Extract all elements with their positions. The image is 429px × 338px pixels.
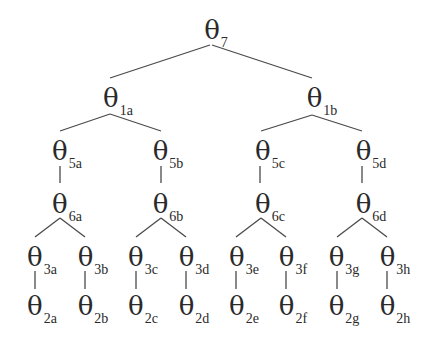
theta-symbol: θ [179, 291, 195, 321]
theta-symbol: θ [204, 15, 220, 45]
theta-symbol: θ [229, 291, 245, 321]
theta-symbol: θ [255, 189, 271, 219]
edge-1b-5c [261, 115, 312, 131]
theta-symbol: θ [128, 242, 144, 272]
theta-symbol: θ [229, 242, 245, 272]
node-theta-5a: θ5a [52, 138, 82, 164]
node-theta-5c: θ5c [255, 138, 285, 164]
edge-6c-3e [236, 218, 261, 237]
node-subscript: 6b [169, 209, 183, 224]
node-theta-6c: θ6c [255, 191, 285, 217]
node-theta-2d: θ2d [179, 293, 210, 319]
node-theta-3f: θ3f [279, 244, 307, 270]
edge-7-1a [110, 45, 210, 78]
node-subscript: 5a [69, 156, 82, 171]
node-theta-6d: θ6d [356, 191, 387, 217]
node-subscript: 5b [169, 156, 183, 171]
edge-1a-5b [110, 114, 161, 131]
node-theta-2b: θ2b [78, 293, 109, 319]
node-theta-2a: θ2a [27, 293, 57, 319]
node-subscript: 2d [195, 311, 209, 326]
node-theta-5b: θ5b [153, 138, 184, 164]
node-subscript: 1b [323, 103, 337, 118]
theta-symbol: θ [52, 189, 68, 219]
theta-symbol: θ [380, 242, 396, 272]
theta-symbol: θ [27, 291, 43, 321]
node-theta-2e: θ2e [229, 293, 259, 319]
node-theta-6a: θ6a [52, 191, 82, 217]
theta-symbol: θ [128, 291, 144, 321]
node-subscript: 3f [295, 262, 307, 277]
node-subscript: 2g [345, 311, 359, 326]
edge-6b-3c [136, 218, 161, 237]
theta-symbol: θ [307, 83, 323, 113]
node-theta-3d: θ3d [179, 244, 210, 270]
node-theta-7: θ7 [204, 17, 228, 43]
edge-1a-5a [60, 114, 110, 131]
theta-symbol: θ [153, 189, 169, 219]
node-subscript: 5c [272, 156, 285, 171]
node-subscript: 7 [221, 35, 228, 50]
node-subscript: 1a [120, 103, 133, 118]
node-subscript: 3g [345, 262, 359, 277]
theta-symbol: θ [356, 189, 372, 219]
node-subscript: 6d [372, 209, 386, 224]
node-theta-3e: θ3e [229, 244, 259, 270]
node-subscript: 3a [44, 262, 57, 277]
node-theta-3c: θ3c [128, 244, 158, 270]
node-subscript: 3c [145, 262, 158, 277]
theta-symbol: θ [78, 291, 94, 321]
node-subscript: 5d [372, 156, 386, 171]
node-theta-3g: θ3g [329, 244, 360, 270]
node-subscript: 3e [246, 262, 259, 277]
theta-symbol: θ [255, 136, 271, 166]
node-theta-3b: θ3b [78, 244, 109, 270]
node-subscript: 2a [44, 311, 57, 326]
node-theta-3a: θ3a [27, 244, 57, 270]
node-subscript: 3d [195, 262, 209, 277]
tree-edges [0, 0, 429, 338]
node-subscript: 2b [94, 311, 108, 326]
node-subscript: 2h [396, 311, 410, 326]
theta-symbol: θ [27, 242, 43, 272]
node-theta-5d: θ5d [356, 138, 387, 164]
node-subscript: 6a [69, 209, 82, 224]
theta-symbol: θ [329, 291, 345, 321]
node-theta-2f: θ2f [279, 293, 307, 319]
node-subscript: 2f [295, 311, 307, 326]
node-subscript: 3b [94, 262, 108, 277]
theta-symbol: θ [179, 242, 195, 272]
theta-symbol: θ [153, 136, 169, 166]
theta-symbol: θ [329, 242, 345, 272]
theta-symbol: θ [356, 136, 372, 166]
node-theta-2h: θ2h [380, 293, 411, 319]
node-theta-2g: θ2g [329, 293, 360, 319]
theta-symbol: θ [279, 242, 295, 272]
node-subscript: 3h [396, 262, 410, 277]
theta-symbol: θ [279, 291, 295, 321]
node-subscript: 6c [272, 209, 285, 224]
theta-symbol: θ [78, 242, 94, 272]
edge-6a-3a [35, 218, 60, 237]
theta-symbol: θ [380, 291, 396, 321]
node-theta-1a: θ1a [103, 85, 133, 111]
node-subscript: 2c [145, 311, 158, 326]
node-theta-2c: θ2c [128, 293, 158, 319]
edge-6d-3g [337, 218, 362, 237]
node-theta-3h: θ3h [380, 244, 411, 270]
node-theta-6b: θ6b [153, 191, 184, 217]
node-subscript: 2e [246, 311, 259, 326]
theta-symbol: θ [52, 136, 68, 166]
theta-symbol: θ [103, 83, 119, 113]
node-theta-1b: θ1b [307, 85, 338, 111]
